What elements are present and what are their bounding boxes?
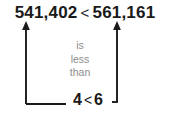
is-less-than-annotation: is less than — [62, 39, 98, 80]
bottom-less-than-operator: < — [82, 92, 94, 108]
bottom-comparison-expression: 4<6 — [60, 91, 116, 109]
annotation-line-less: less — [62, 53, 98, 67]
bottom-right-digit: 6 — [94, 91, 103, 108]
annotation-line-is: is — [62, 39, 98, 53]
annotation-line-than: than — [62, 66, 98, 80]
bottom-left-digit: 4 — [73, 91, 82, 108]
right-arrowhead-icon — [113, 21, 121, 30]
place-value-comparison-figure: 541,402<561,161 is less than 4<6 — [0, 0, 170, 117]
left-arrowhead-icon — [22, 21, 30, 30]
